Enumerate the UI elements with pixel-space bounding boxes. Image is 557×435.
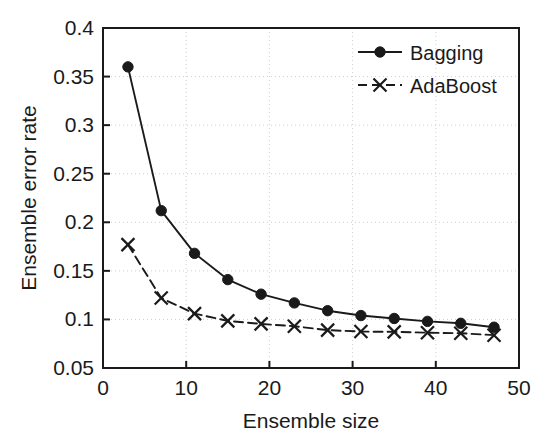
y-axis-tick-label: 0.05 (53, 356, 94, 379)
y-axis-tick-label: 0.2 (65, 210, 94, 233)
legend-label: Bagging (410, 42, 483, 64)
data-point-marker (456, 318, 466, 328)
x-axis-tick-label: 20 (258, 376, 281, 399)
data-point-marker (422, 316, 432, 326)
data-point-marker (156, 205, 166, 215)
y-axis-tick-labels: 0.050.10.150.20.250.30.350.4 (53, 16, 94, 379)
x-axis-tick-label: 30 (341, 376, 364, 399)
y-axis-tick-label: 0.3 (65, 113, 94, 136)
y-axis-tick-label: 0.35 (53, 65, 94, 88)
y-axis-tick-label: 0.4 (65, 16, 95, 39)
data-point-marker (189, 248, 199, 258)
data-point-marker (389, 313, 399, 323)
data-point-marker (356, 310, 366, 320)
data-point-marker (289, 298, 299, 308)
x-axis-tick-label: 50 (507, 376, 530, 399)
data-point-marker (223, 274, 233, 284)
y-axis-tick-label: 0.15 (53, 259, 94, 282)
y-axis-tick-label: 0.25 (53, 162, 94, 185)
legend-marker-filled-circle (375, 47, 385, 57)
x-axis-tick-labels: 01020304050 (97, 376, 531, 399)
x-axis-tick-label: 10 (175, 376, 198, 399)
y-axis-tick-label: 0.1 (65, 307, 94, 330)
data-point-marker (256, 289, 266, 299)
legend-label: AdaBoost (410, 75, 497, 97)
x-axis-tick-label: 0 (97, 376, 109, 399)
chart-figure: 01020304050 0.050.10.150.20.250.30.350.4… (0, 0, 557, 435)
data-point-marker (123, 62, 133, 72)
line-chart: 01020304050 0.050.10.150.20.250.30.350.4… (0, 0, 557, 435)
x-axis-tick-label: 40 (424, 376, 447, 399)
x-axis-title: Ensemble size (243, 409, 380, 432)
y-axis-title: Ensemble error rate (17, 105, 40, 291)
data-point-marker (322, 305, 332, 315)
